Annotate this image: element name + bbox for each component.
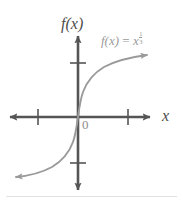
exponent-denominator: 3 bbox=[139, 37, 142, 45]
equation-exponent-fraction: 1 3 bbox=[139, 31, 142, 46]
cube-root-function-figure: f(x) x 0 f(x) = x 1 3 bbox=[0, 0, 183, 203]
equation-label: f(x) = x 1 3 bbox=[101, 34, 142, 50]
x-axis bbox=[10, 109, 150, 125]
equation-operator: = bbox=[119, 33, 133, 48]
x-axis-label: x bbox=[162, 108, 169, 124]
equation-lhs: f(x) bbox=[101, 33, 119, 48]
origin-label: 0 bbox=[82, 118, 89, 131]
graph-canvas bbox=[0, 0, 183, 203]
curve-branch-positive bbox=[78, 55, 147, 117]
exponent-numerator: 1 bbox=[139, 31, 142, 38]
bottom-divider bbox=[6, 196, 177, 197]
equation-base: x bbox=[133, 33, 139, 48]
y-axis-label: f(x) bbox=[61, 16, 83, 32]
curve-branch-negative bbox=[16, 117, 78, 177]
